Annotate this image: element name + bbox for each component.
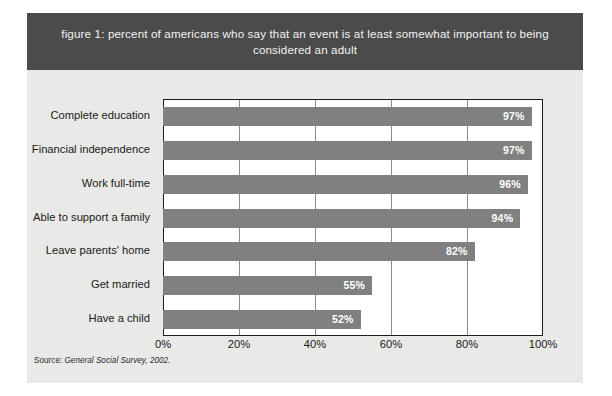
x-tick-label: 20%: [228, 338, 250, 350]
bar-value-label: 55%: [343, 276, 372, 295]
bar-value-label: 97%: [503, 141, 532, 160]
bar-value-label: 97%: [503, 107, 532, 126]
source-note: Source: General Social Survey, 2002.: [34, 356, 170, 365]
bar[interactable]: [163, 242, 475, 261]
bar-value-label: 52%: [332, 310, 361, 329]
y-axis-category-labels: Complete educationFinancial independence…: [27, 99, 157, 336]
category-label: Have a child: [27, 302, 157, 336]
bar-row: 94%: [163, 201, 543, 235]
bar[interactable]: [163, 175, 528, 194]
x-tick-label: 0%: [155, 338, 171, 350]
bar-row: 97%: [163, 99, 543, 133]
x-tick-label: 40%: [304, 338, 326, 350]
bar[interactable]: [163, 209, 520, 228]
category-label: Work full-time: [27, 167, 157, 201]
source-label: Source:: [34, 356, 62, 365]
source-text: General Social Survey, 2002.: [65, 356, 171, 365]
chart-body: Complete educationFinancial independence…: [27, 70, 583, 383]
bar-value-label: 82%: [446, 242, 475, 261]
x-tick-label: 100%: [529, 338, 558, 350]
bar[interactable]: [163, 141, 532, 160]
category-label: Leave parents' home: [27, 234, 157, 268]
category-label: Get married: [27, 268, 157, 302]
bar-value-label: 94%: [492, 209, 521, 228]
x-tick-label: 80%: [456, 338, 478, 350]
figure-title-band: figure 1: percent of americans who say t…: [27, 13, 583, 70]
bar[interactable]: [163, 107, 532, 126]
bar[interactable]: [163, 310, 361, 329]
bar-row: 55%: [163, 268, 543, 302]
x-tick-label: 60%: [380, 338, 402, 350]
category-label: Able to support a family: [27, 201, 157, 235]
bar-row: 82%: [163, 234, 543, 268]
bar-row: 96%: [163, 167, 543, 201]
x-axis-tick-labels: 0%20%40%60%80%100%: [163, 338, 543, 356]
bar-value-label: 96%: [499, 175, 528, 194]
bar-row: 97%: [163, 133, 543, 167]
figure-card: figure 1: percent of americans who say t…: [27, 13, 583, 383]
bar-row: 52%: [163, 302, 543, 336]
category-label: Complete education: [27, 99, 157, 133]
page-title: figure 1: percent of americans who say t…: [53, 26, 557, 58]
bars-layer: 97%97%96%94%82%55%52%: [163, 99, 543, 336]
category-label: Financial independence: [27, 133, 157, 167]
bar[interactable]: [163, 276, 372, 295]
